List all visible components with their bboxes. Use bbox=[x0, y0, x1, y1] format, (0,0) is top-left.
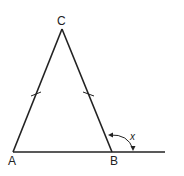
diagram-canvas: C A B x bbox=[0, 0, 184, 176]
side-ac bbox=[13, 29, 62, 152]
label-b: B bbox=[110, 154, 118, 168]
arrowhead-icon bbox=[108, 133, 113, 138]
side-bc bbox=[62, 29, 112, 152]
label-c: C bbox=[57, 14, 66, 28]
angle-label-x: x bbox=[129, 131, 136, 142]
arrowhead-icon bbox=[131, 146, 136, 151]
triangle-diagram: C A B x bbox=[0, 0, 184, 176]
label-a: A bbox=[8, 154, 16, 168]
